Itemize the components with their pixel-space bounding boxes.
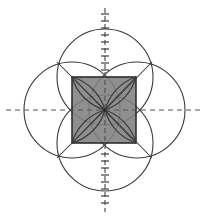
center-point — [103, 108, 106, 111]
geometric-figure — [0, 0, 208, 218]
figure-canvas — [0, 0, 208, 218]
